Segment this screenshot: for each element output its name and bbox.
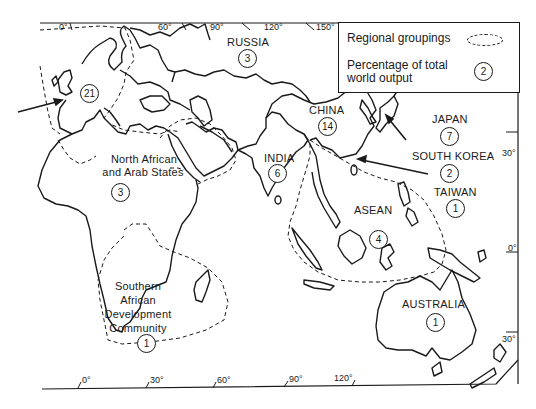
japan-value: 7 <box>440 127 459 146</box>
legend-percentage-label: Percentage of total world output <box>347 59 457 85</box>
sadc-label-2: African <box>98 294 178 307</box>
russia-value: 3 <box>238 49 257 68</box>
russia-label: RUSSIA <box>227 36 269 49</box>
lon-tick-top-60: 60° <box>158 22 172 32</box>
taiwan-label: TAIWAN <box>434 186 477 199</box>
india-value: 6 <box>268 164 287 183</box>
sadc-label-1: Southern <box>98 280 178 293</box>
lon-tick-bottom-0: 0° <box>82 375 91 385</box>
china-label: CHINA <box>309 104 344 117</box>
lon-tick-bottom-90: 90° <box>289 374 303 384</box>
dashed-outline-icon <box>467 34 503 46</box>
australia-label: AUSTRALIA <box>402 298 465 311</box>
lon-tick-bottom-30: 30° <box>150 375 164 385</box>
lon-tick-top-90: 90° <box>210 22 224 32</box>
lat-tick-right-0: 0° <box>508 243 517 253</box>
lon-tick-top-120: 120° <box>264 22 283 32</box>
india-label: INDIA <box>264 152 294 165</box>
lon-tick-bottom-60: 60° <box>217 375 231 385</box>
south-korea-label: SOUTH KOREA <box>412 150 494 163</box>
sadc-value: 1 <box>137 334 156 353</box>
lon-tick-top-0: 0° <box>59 22 68 32</box>
australia-value: 1 <box>426 313 445 332</box>
china-value: 14 <box>318 117 337 136</box>
lat-tick-right-30n: 30° <box>502 148 516 158</box>
asean-label: ASEAN <box>354 204 392 217</box>
south-korea-value: 2 <box>440 164 459 183</box>
legend-circle-sample: 2 <box>474 62 493 81</box>
sadc-label-4: Community <box>98 322 178 335</box>
north-african-arab-label-2: and Arab States <box>88 166 198 179</box>
sadc-label-3: Development <box>98 308 178 321</box>
europe-value: 21 <box>80 84 99 103</box>
north-african-arab-value: 3 <box>111 183 130 202</box>
north-african-arab-label-1: North African <box>94 153 194 166</box>
taiwan-value: 1 <box>446 199 465 218</box>
asean-value: 4 <box>369 230 388 249</box>
japan-label: JAPAN <box>432 113 468 126</box>
lon-tick-bottom-120: 120° <box>334 373 353 383</box>
legend-box: Regional groupings Percentage of total w… <box>338 22 520 93</box>
lat-tick-right-30s: 30° <box>502 334 516 344</box>
legend-regional-groupings-label: Regional groupings <box>347 31 450 45</box>
lon-tick-top-150: 150° <box>316 22 335 32</box>
